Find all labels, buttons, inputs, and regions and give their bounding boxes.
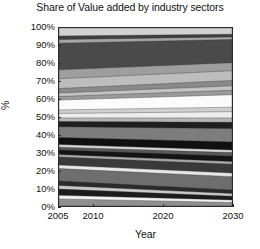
x-tick-mark (163, 204, 164, 207)
y-axis-label: % (0, 101, 11, 110)
y-tick-label: 20% (3, 166, 55, 176)
x-tick-mark (233, 204, 234, 207)
x-axis-label: Year (58, 228, 233, 240)
x-tick-mark (93, 204, 94, 207)
y-tick-mark (58, 207, 61, 208)
y-tick-label: 90% (3, 40, 55, 50)
x-tick-mark (58, 204, 59, 207)
y-tick-label: 50% (3, 112, 55, 122)
y-tick-label: 10% (3, 184, 55, 194)
y-tick-mark (58, 45, 61, 46)
y-tick-label: 80% (3, 58, 55, 68)
y-tick-mark (58, 117, 61, 118)
y-tick-mark (58, 99, 61, 100)
chart-figure: Share of Value added by industry sectors… (0, 0, 260, 249)
x-tick-label: 2020 (143, 210, 183, 221)
plot-area (58, 27, 233, 207)
y-tick-label: 30% (3, 148, 55, 158)
y-tick-mark (58, 63, 61, 64)
y-tick-mark (58, 153, 61, 154)
stacked-area-series-group (59, 28, 232, 206)
x-tick-label: 2010 (73, 210, 113, 221)
y-tick-mark (58, 135, 61, 136)
y-tick-mark (58, 171, 61, 172)
y-tick-label: 70% (3, 76, 55, 86)
y-tick-label: 40% (3, 130, 55, 140)
y-tick-mark (58, 189, 61, 190)
x-tick-label: 2005 (38, 210, 78, 221)
x-tick-label: 2030 (213, 210, 253, 221)
y-tick-label: 100% (3, 22, 55, 32)
y-tick-mark (58, 27, 61, 28)
y-tick-mark (58, 81, 61, 82)
